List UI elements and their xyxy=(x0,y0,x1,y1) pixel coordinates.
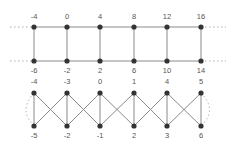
node-label: 10 xyxy=(163,66,171,75)
node-label: 16 xyxy=(197,12,205,21)
node xyxy=(64,24,69,29)
node-label: -4 xyxy=(31,12,38,21)
node-label: -2 xyxy=(64,66,71,75)
dotted-curve-right xyxy=(201,93,210,126)
node xyxy=(31,123,36,128)
node xyxy=(97,58,102,63)
node xyxy=(64,123,69,128)
node-label: -2 xyxy=(64,131,71,140)
node xyxy=(131,123,136,128)
node-label: 4 xyxy=(98,12,102,21)
node xyxy=(97,123,102,128)
dotted-curve-left xyxy=(26,93,34,126)
node xyxy=(131,58,136,63)
node-label: -5 xyxy=(31,131,38,140)
node xyxy=(198,24,203,29)
node xyxy=(164,90,169,95)
node xyxy=(131,24,136,29)
node-label: 12 xyxy=(163,12,171,21)
node xyxy=(198,123,203,128)
node-label: -3 xyxy=(64,77,71,86)
node xyxy=(31,58,36,63)
ladder-graph: -4 0 4 8 12 16 -6 -2 2 6 10 14 xyxy=(10,12,226,75)
node-label: 6 xyxy=(132,66,136,75)
node xyxy=(164,123,169,128)
node xyxy=(97,90,102,95)
node xyxy=(198,58,203,63)
node-label: -1 xyxy=(97,131,104,140)
node xyxy=(198,90,203,95)
node-label: 8 xyxy=(132,12,136,21)
node-label: 5 xyxy=(199,77,203,86)
node xyxy=(131,90,136,95)
node-label: -6 xyxy=(31,66,38,75)
node-label: 1 xyxy=(132,77,136,86)
node xyxy=(31,24,36,29)
node-label: -4 xyxy=(31,77,38,86)
node-label: 14 xyxy=(197,66,205,75)
node-label: 2 xyxy=(98,66,102,75)
node xyxy=(164,58,169,63)
node xyxy=(64,90,69,95)
node xyxy=(31,90,36,95)
crossed-graph: -4 -3 0 1 4 5 -5 -2 -1 2 3 6 xyxy=(26,77,210,140)
node xyxy=(64,58,69,63)
node-label: 6 xyxy=(199,131,203,140)
node-label: 0 xyxy=(98,77,102,86)
node xyxy=(164,24,169,29)
node-label: 3 xyxy=(165,131,169,140)
node-label: 2 xyxy=(132,131,136,140)
node-label: 4 xyxy=(165,77,169,86)
node-label: 0 xyxy=(65,12,69,21)
diagram-canvas: -4 0 4 8 12 16 -6 -2 2 6 10 14 xyxy=(0,0,234,146)
node xyxy=(97,24,102,29)
